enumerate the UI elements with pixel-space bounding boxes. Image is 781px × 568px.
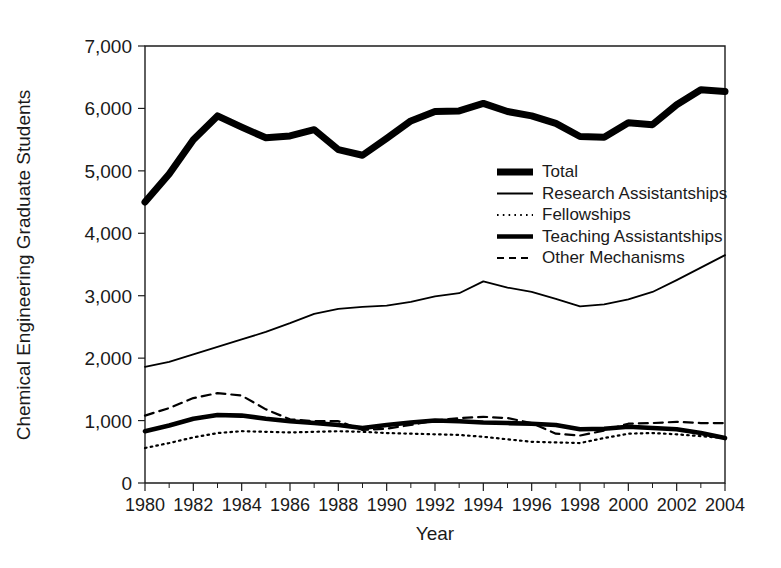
x-tick-label: 1986 <box>270 495 310 515</box>
legend-label: Total <box>542 162 578 181</box>
y-axis: 01,0002,0003,0004,0005,0006,0007,000 <box>84 36 145 494</box>
x-tick-label: 2000 <box>608 495 648 515</box>
y-tick-label: 6,000 <box>84 98 132 119</box>
legend-label: Teaching Assistantships <box>542 227 723 246</box>
chart-legend: TotalResearch AssistantshipsFellowshipsT… <box>497 162 727 267</box>
legend-label: Fellowships <box>542 205 631 224</box>
x-axis: 1980198219841986198819901992199419961998… <box>125 483 745 515</box>
legend-label: Research Assistantships <box>542 184 727 203</box>
y-tick-label: 2,000 <box>84 348 132 369</box>
x-tick-label: 1984 <box>222 495 262 515</box>
series-group <box>145 90 725 448</box>
x-tick-label: 2002 <box>657 495 697 515</box>
y-tick-label: 7,000 <box>84 36 132 57</box>
x-tick-label: 1988 <box>318 495 358 515</box>
x-tick-label: 1990 <box>367 495 407 515</box>
chart-figure: 01,0002,0003,0004,0005,0006,0007,000 198… <box>0 0 781 568</box>
y-tick-label: 4,000 <box>84 223 132 244</box>
x-tick-label: 1994 <box>463 495 503 515</box>
x-tick-label: 1996 <box>512 495 552 515</box>
y-tick-label: 1,000 <box>84 411 132 432</box>
y-tick-label: 0 <box>121 473 132 494</box>
x-axis-title: Year <box>416 523 455 544</box>
x-tick-label: 1980 <box>125 495 165 515</box>
y-tick-label: 5,000 <box>84 161 132 182</box>
x-tick-label: 1992 <box>415 495 455 515</box>
series-line <box>145 431 725 448</box>
x-tick-label: 1998 <box>560 495 600 515</box>
y-axis-title: Chemical Engineering Graduate Students <box>13 90 34 441</box>
line-chart-canvas: 01,0002,0003,0004,0005,0006,0007,000 198… <box>0 0 781 568</box>
x-tick-label: 2004 <box>705 495 745 515</box>
legend-label: Other Mechanisms <box>542 248 685 267</box>
series-line <box>145 255 725 367</box>
x-tick-label: 1982 <box>173 495 213 515</box>
y-tick-label: 3,000 <box>84 286 132 307</box>
